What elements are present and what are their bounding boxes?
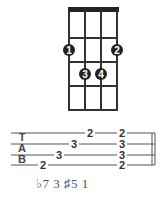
chord-diagram: 1 2 3 4: [63, 7, 123, 110]
finger-dot-2: 2: [111, 44, 123, 56]
tab-note: 2: [87, 127, 93, 139]
tablature: T A B 2 3 3 2 2 3 3 2: [11, 127, 155, 171]
svg-text:1: 1: [66, 45, 72, 56]
finger-dot-3: 3: [79, 68, 91, 80]
tab-chord-note: 2: [119, 159, 125, 171]
interval-labels: ♭7 3 ♯5 1: [36, 176, 89, 192]
tab-note: 2: [40, 159, 46, 171]
svg-text:2: 2: [114, 45, 120, 56]
finger-dot-1: 1: [63, 44, 75, 56]
tab-note: 3: [56, 149, 62, 161]
svg-text:3: 3: [82, 69, 88, 80]
tab-clef-b: B: [18, 153, 26, 165]
finger-dot-4: 4: [95, 68, 107, 80]
tab-note: 3: [71, 138, 77, 150]
svg-text:4: 4: [98, 69, 104, 80]
chord-and-tab-figure: 1 2 3 4 T A B 2 3: [0, 0, 167, 204]
nut: [68, 7, 119, 12]
